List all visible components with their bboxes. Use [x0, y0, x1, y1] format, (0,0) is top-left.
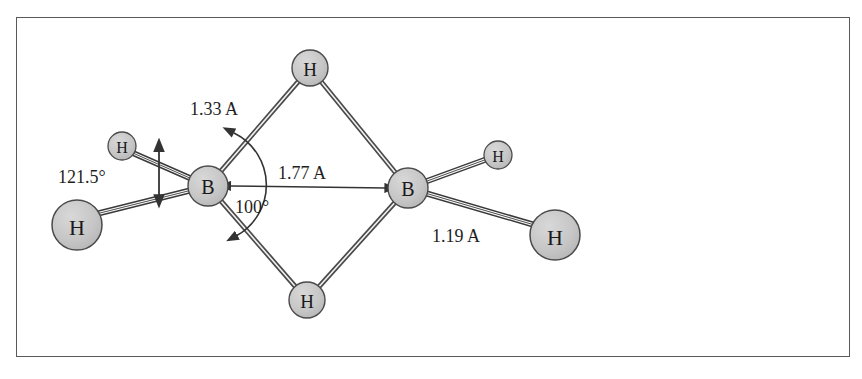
atom-label-h-upper-left: H: [116, 139, 128, 156]
figure-page: H H H H H H: [0, 0, 862, 379]
atom-h-upper-right: H: [484, 141, 512, 169]
molecule-diagram: H H H H H H: [0, 0, 862, 379]
label-terminal-bond-length: 1.19 A: [432, 226, 480, 246]
atom-label-b-left: B: [201, 176, 214, 198]
atom-label-h-top: H: [303, 59, 317, 80]
atom-label-h-lower-right: H: [547, 225, 563, 250]
atom-h-lower-left: H: [52, 200, 102, 250]
atom-h-upper-left: H: [108, 132, 136, 160]
atom-h-bottom: H: [289, 282, 325, 318]
label-boron-boron-distance: 1.77 A: [278, 163, 326, 183]
label-bridge-angle: 100°: [235, 197, 269, 217]
label-bridge-bond-length: 1.33 A: [190, 99, 238, 119]
atom-label-h-lower-left: H: [69, 215, 85, 240]
atoms-layer: H H H H H H: [52, 50, 580, 318]
atom-label-b-right: B: [401, 178, 414, 200]
atom-label-h-upper-right: H: [492, 148, 504, 165]
atom-label-h-bottom: H: [300, 291, 314, 312]
atom-b-right: B: [388, 168, 428, 208]
atom-h-lower-right: H: [530, 210, 580, 260]
atom-b-left: B: [188, 166, 228, 206]
bond-hbottom-bright: [307, 188, 408, 300]
arrow-b-b-distance: [231, 186, 386, 188]
atom-h-top: H: [292, 50, 328, 86]
label-terminal-angle: 121.5°: [58, 167, 106, 187]
